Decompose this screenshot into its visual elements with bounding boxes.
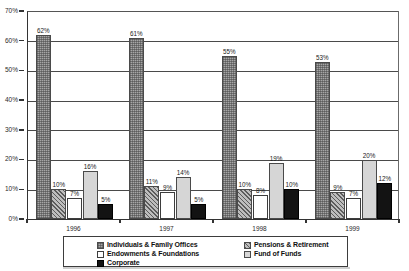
chart-title-cropped xyxy=(70,0,340,5)
legend-swatch xyxy=(97,242,104,249)
legend-swatch xyxy=(244,242,251,249)
legend-label: Individuals & Family Offices xyxy=(107,241,198,249)
y-axis-tick xyxy=(19,70,24,71)
x-axis-tick xyxy=(26,219,27,223)
x-axis-tick xyxy=(398,219,399,223)
gridline xyxy=(28,130,399,131)
legend-swatch xyxy=(97,251,104,258)
y-axis-tick-label: 0% xyxy=(9,216,18,223)
y-axis-tick-label: 20% xyxy=(5,156,18,163)
legend-label: Endowments & Foundations xyxy=(107,250,199,258)
plot-area: 62%10%7%16%5%61%11%9%14%5%55%10%8%19%10%… xyxy=(27,11,399,219)
scan-artifact xyxy=(63,267,350,269)
bar-value-label: 10% xyxy=(280,182,303,188)
bar xyxy=(222,56,237,219)
x-axis-tick xyxy=(212,219,213,223)
gridline xyxy=(28,41,399,42)
bar-value-label: 62% xyxy=(32,28,55,34)
bar xyxy=(98,204,113,219)
bar xyxy=(315,62,330,219)
legend-swatch xyxy=(97,260,104,267)
bar-value-label: 12% xyxy=(373,176,396,182)
y-axis-tick-label: 60% xyxy=(5,38,18,45)
bar xyxy=(67,198,82,219)
y-axis-tick xyxy=(19,99,24,100)
legend-item: Corporate xyxy=(97,259,140,267)
bar-value-label: 53% xyxy=(311,55,334,61)
bar-value-label: 19% xyxy=(265,156,288,162)
legend-swatch xyxy=(244,251,251,258)
bar xyxy=(346,198,361,219)
y-axis-tick-label: 50% xyxy=(5,67,18,74)
legend-item: Pensions & Retirement xyxy=(244,241,329,249)
bar-value-label: 14% xyxy=(172,170,195,176)
gridline xyxy=(28,101,399,102)
axis-right-spine xyxy=(398,11,399,219)
legend-label: Pensions & Retirement xyxy=(254,241,329,249)
legend-label: Fund of Funds xyxy=(254,250,301,258)
bar xyxy=(284,189,299,219)
x-axis-tick xyxy=(305,219,306,223)
y-axis-tick xyxy=(19,40,24,41)
bar xyxy=(377,183,392,219)
legend-item: Endowments & Foundations xyxy=(97,250,199,258)
bar xyxy=(362,160,377,219)
bar-value-label: 55% xyxy=(218,49,241,55)
x-axis-category-label: 1997 xyxy=(147,225,187,232)
y-axis-tick-label: 70% xyxy=(5,8,18,15)
legend-label: Corporate xyxy=(107,259,140,267)
legend-item: Fund of Funds xyxy=(244,250,301,258)
bar-value-label: 5% xyxy=(187,197,210,203)
gridline xyxy=(28,71,399,72)
y-axis-tick xyxy=(19,189,24,190)
bar-value-label: 61% xyxy=(125,31,148,37)
y-axis: 0%10%20%30%40%50%60%70% xyxy=(0,0,24,219)
x-axis-tick xyxy=(119,219,120,223)
bar-value-label: 20% xyxy=(358,153,381,159)
x-axis-category-label: 1998 xyxy=(240,225,280,232)
y-axis-tick-label: 30% xyxy=(5,127,18,134)
bar-value-label: 5% xyxy=(94,197,117,203)
x-axis-category-label: 1999 xyxy=(333,225,373,232)
y-axis-tick xyxy=(19,129,24,130)
x-axis-category-label: 1996 xyxy=(54,225,94,232)
gridline xyxy=(28,160,399,161)
chart-legend: Individuals & Family OfficesEndowments &… xyxy=(63,236,348,267)
bar xyxy=(36,35,51,219)
bar-chart: 0%10%20%30%40%50%60%70% 62%10%7%16%5%61%… xyxy=(0,0,409,271)
bar xyxy=(129,38,144,219)
y-axis-tick xyxy=(19,218,24,219)
bar xyxy=(253,195,268,219)
y-axis-tick xyxy=(19,159,24,160)
y-axis-tick-label: 10% xyxy=(5,186,18,193)
bar xyxy=(191,204,206,219)
bar-value-label: 16% xyxy=(79,164,102,170)
bar xyxy=(83,171,98,219)
legend-item: Individuals & Family Offices xyxy=(97,241,198,249)
bar-value-label: 10% xyxy=(47,182,70,188)
bar xyxy=(269,163,284,219)
y-axis-tick xyxy=(19,10,24,11)
y-axis-tick-label: 40% xyxy=(5,97,18,104)
bar xyxy=(160,192,175,219)
